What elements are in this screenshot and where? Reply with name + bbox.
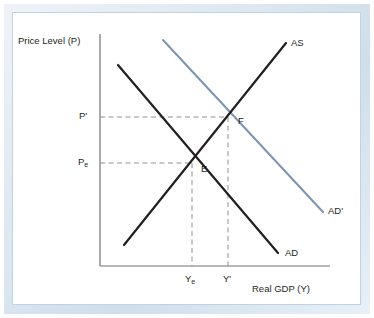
curve-label-ad: AD — [285, 248, 298, 258]
y-tick-label-p-e: Pe — [78, 157, 88, 168]
y-tick-label-p-prime: P' — [79, 111, 87, 121]
figure-root: Price Level (P) Real GDP (Y) AS AD AD' E… — [0, 0, 374, 318]
curve-ad-prime — [163, 40, 323, 212]
point-label-e: E — [201, 164, 207, 174]
plot-area: Price Level (P) Real GDP (Y) AS AD AD' E… — [12, 12, 361, 305]
chart-canvas — [12, 12, 361, 305]
x-tick-label-y-prime: Y' — [223, 274, 231, 284]
curve-label-as: AS — [291, 38, 304, 48]
curve-as — [124, 43, 286, 245]
x-axis-title: Real GDP (Y) — [252, 284, 310, 294]
y-axis-title: Price Level (P) — [18, 36, 80, 46]
x-tick-y-e-subscript: e — [191, 278, 195, 285]
y-tick-p-e-subscript: e — [84, 161, 88, 168]
curve-ad — [118, 65, 278, 253]
x-tick-label-y-e: Ye — [185, 274, 195, 285]
curve-label-ad-prime: AD' — [328, 206, 343, 216]
point-label-f: F — [238, 116, 244, 126]
